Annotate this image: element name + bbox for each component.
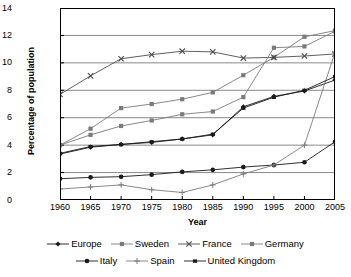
legend-label: Spain: [150, 256, 174, 266]
x-tick-label: 1960: [43, 203, 77, 212]
series-germany: [60, 29, 335, 147]
series-layer: [60, 29, 335, 196]
x-axis-title: Year: [60, 217, 335, 227]
plot-area: [60, 8, 335, 200]
data-point: [119, 174, 124, 179]
dash-marker-icon: [184, 256, 206, 266]
y-axis-title: Percentage of population: [26, 16, 36, 186]
data-point: [120, 241, 124, 245]
data-point: [271, 162, 277, 168]
data-point: [241, 73, 245, 77]
data-point: [134, 258, 140, 264]
data-point: [150, 140, 154, 143]
data-point: [119, 124, 123, 128]
series-line: [60, 51, 335, 94]
series-line: [60, 80, 335, 154]
series-line: [60, 142, 335, 179]
line-chart-svg: [60, 8, 335, 200]
y-tick-label: 10: [0, 58, 12, 67]
legend-item-spain[interactable]: Spain: [126, 256, 174, 266]
data-point: [211, 133, 215, 136]
series-line: [60, 31, 335, 146]
legend-row-2: ItalySpainUnited Kingdom: [0, 252, 351, 269]
legend-item-united-kingdom[interactable]: United Kingdom: [184, 256, 276, 266]
legend-item-france[interactable]: France: [178, 239, 232, 249]
data-point: [88, 133, 92, 137]
legend-label: Germany: [265, 239, 304, 249]
data-point: [88, 145, 92, 148]
series-line: [60, 31, 335, 145]
x-tick-label: 1985: [196, 203, 230, 212]
data-point: [180, 170, 185, 175]
data-point: [88, 175, 93, 180]
legend-label: Italy: [100, 256, 117, 266]
data-point: [302, 160, 307, 165]
plus-marker-icon: [126, 256, 148, 266]
data-point: [179, 190, 185, 196]
data-point: [210, 182, 216, 188]
x-tick-label: 1990: [226, 203, 260, 212]
data-point: [119, 143, 123, 146]
legend-label: France: [202, 239, 232, 249]
x-tick-label: 2005: [318, 203, 351, 212]
data-point: [180, 97, 184, 101]
series-spain: [60, 50, 335, 196]
x-tick-label: 1970: [104, 203, 138, 212]
data-point: [241, 165, 246, 170]
x-tick-label: 1980: [165, 203, 199, 212]
data-point: [149, 172, 154, 177]
data-point: [119, 106, 123, 110]
legend-item-germany[interactable]: Germany: [241, 239, 304, 249]
x-tick-label: 2000: [287, 203, 321, 212]
data-point: [180, 112, 184, 116]
data-point: [240, 171, 246, 177]
y-tick-label: 14: [0, 4, 12, 13]
diamond-marker-icon: [47, 239, 69, 249]
y-tick-label: 4: [0, 141, 12, 150]
square-marker-icon: [241, 239, 263, 249]
data-point: [210, 168, 215, 173]
data-point: [56, 241, 61, 246]
data-point: [272, 96, 276, 99]
legend-item-europe[interactable]: Europe: [47, 239, 102, 249]
y-tick-label: 12: [0, 31, 12, 40]
data-point: [241, 107, 245, 110]
legend-item-italy[interactable]: Italy: [76, 256, 117, 266]
circle-marker-icon: [76, 256, 98, 266]
data-point: [250, 241, 254, 245]
y-tick-label: 8: [0, 86, 12, 95]
data-point: [118, 182, 124, 188]
legend-item-sweden[interactable]: Sweden: [111, 239, 169, 249]
series-united-kingdom: [60, 75, 335, 155]
data-point: [88, 184, 94, 190]
y-tick-label: 6: [0, 113, 12, 122]
y-tick-label: 0: [0, 196, 12, 205]
data-point: [180, 137, 184, 140]
chart-root: Percentage of population 02468101214 196…: [0, 0, 351, 277]
chart-legend: EuropeSwedenFranceGermanyItalySpainUnite…: [0, 235, 351, 269]
cross-marker-icon: [178, 239, 200, 249]
data-point: [302, 89, 306, 92]
series-line: [60, 77, 335, 154]
data-point: [302, 35, 306, 39]
data-point: [302, 44, 306, 48]
y-tick-label: 2: [0, 168, 12, 177]
data-point: [211, 109, 215, 113]
legend-label: United Kingdom: [208, 256, 276, 266]
legend-label: Europe: [71, 239, 102, 249]
data-point: [149, 187, 155, 193]
data-point: [150, 102, 154, 106]
series-sweden: [60, 29, 335, 148]
data-point: [85, 258, 90, 263]
legend-row-1: EuropeSwedenFranceGermany: [0, 235, 351, 252]
data-point: [241, 95, 245, 99]
square-marker-icon: [111, 239, 133, 249]
x-tick-label: 1975: [135, 203, 169, 212]
data-point: [211, 90, 215, 94]
x-tick-label: 1965: [74, 203, 108, 212]
data-point: [302, 142, 308, 148]
data-point: [272, 46, 276, 50]
data-point: [88, 127, 92, 131]
x-tick-label: 1995: [257, 203, 291, 212]
data-point: [150, 118, 154, 122]
